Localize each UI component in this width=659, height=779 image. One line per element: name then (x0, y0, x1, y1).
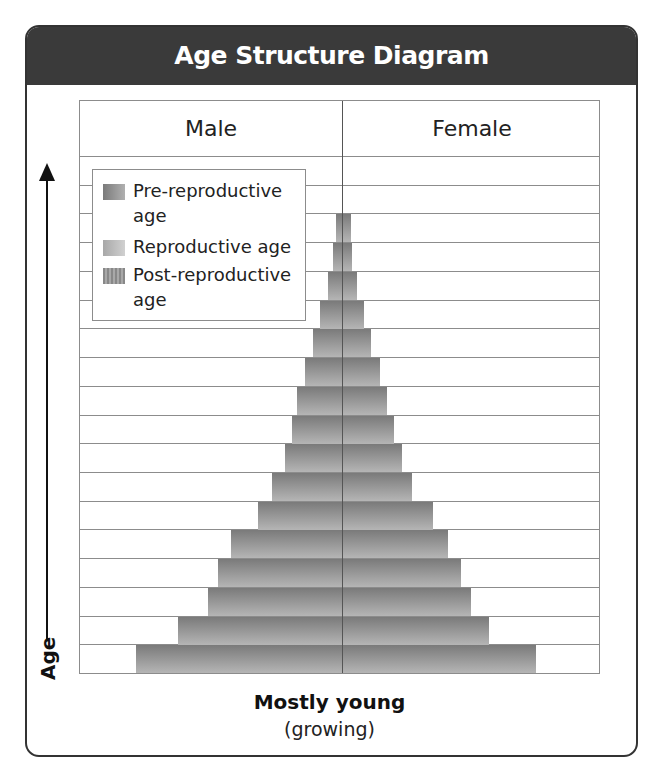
female-bar (343, 530, 448, 558)
male-bar (297, 387, 342, 415)
male-bar (218, 559, 342, 587)
male-bar (328, 272, 342, 300)
female-bar (343, 416, 394, 444)
caption-sub: (growing) (0, 718, 659, 740)
female-bar (343, 358, 380, 386)
title-bar: Age Structure Diagram (27, 27, 636, 85)
male-header: Male (80, 101, 342, 156)
female-bar (343, 645, 536, 673)
male-bar (305, 358, 342, 386)
female-bar (343, 588, 471, 616)
caption-main: Mostly young (0, 690, 659, 714)
legend: Pre-reproductive age Reproductive age Po… (92, 169, 306, 321)
male-bar (320, 301, 342, 329)
pre-reproductive-swatch-icon (103, 184, 125, 200)
male-bar (292, 416, 342, 444)
male-bar (285, 444, 342, 472)
female-bar (343, 559, 461, 587)
post-reproductive-swatch-icon (103, 268, 125, 284)
reproductive-swatch-icon (103, 240, 125, 256)
center-divider (342, 101, 343, 673)
female-bar (343, 301, 364, 329)
female-bar (343, 473, 412, 501)
legend-post-reproductive: Post-reproductive age (133, 262, 303, 312)
female-header: Female (343, 101, 601, 156)
female-bar (343, 617, 489, 645)
legend-reproductive: Reproductive age (133, 234, 303, 259)
male-bar (333, 243, 342, 271)
female-bar (343, 329, 371, 357)
grid-line (80, 156, 599, 157)
age-axis-label: Age (38, 640, 58, 680)
female-bar (343, 272, 357, 300)
male-bar (208, 588, 342, 616)
legend-pre-reproductive: Pre-reproductive age (133, 178, 303, 228)
male-bar (258, 502, 342, 530)
male-bar (231, 530, 342, 558)
female-bar (343, 502, 433, 530)
male-bar (178, 617, 342, 645)
female-bar (343, 444, 402, 472)
male-bar (272, 473, 342, 501)
female-bar (343, 214, 351, 242)
age-axis-line (46, 170, 48, 640)
male-bar (313, 329, 342, 357)
male-bar (136, 645, 342, 673)
female-bar (343, 243, 352, 271)
female-bar (343, 387, 387, 415)
